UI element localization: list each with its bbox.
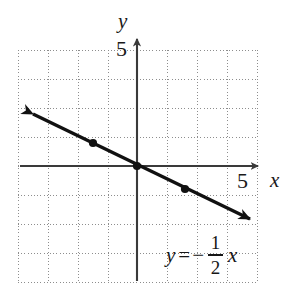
equation-variable: x <box>228 243 237 268</box>
equation-fraction: 1 2 <box>208 233 223 277</box>
fraction-denominator: 2 <box>211 257 221 277</box>
data-point <box>89 139 97 147</box>
equation-minus-sign: − <box>192 243 204 268</box>
function-line <box>33 114 250 219</box>
equation-lhs: y <box>166 243 175 268</box>
data-point <box>181 185 189 193</box>
plotted-line-layer <box>0 0 295 299</box>
x-axis-label: x <box>270 170 279 191</box>
graph-figure: y 5 5 x y = − 1 2 x <box>0 0 295 299</box>
fraction-bar <box>208 254 223 256</box>
y-axis-label: y <box>118 11 127 32</box>
x-axis-tick-label: 5 <box>237 170 248 192</box>
data-point <box>133 162 141 170</box>
fraction-numerator: 1 <box>211 233 221 253</box>
equation-annotation: y = − 1 2 x <box>166 233 237 277</box>
equation-equals-sign: = <box>178 243 190 268</box>
y-axis-tick-label: 5 <box>116 38 127 60</box>
